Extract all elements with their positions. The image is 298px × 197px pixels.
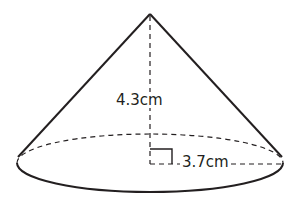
base-front-solid <box>17 163 283 192</box>
right-angle-marker <box>150 149 172 164</box>
slant-right <box>150 14 282 157</box>
cone-diagram: 4.3cm 3.7cm <box>0 0 298 197</box>
height-label: 4.3cm <box>115 92 164 108</box>
slant-left <box>18 14 150 157</box>
radius-label: 3.7cm <box>180 154 231 170</box>
